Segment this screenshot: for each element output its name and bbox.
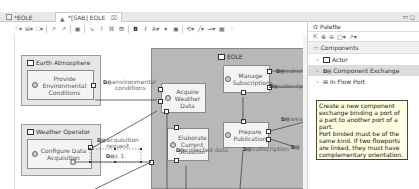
tab-eole[interactable]: *EOLE xyxy=(2,12,37,22)
filter-button[interactable]: ↗ xyxy=(50,24,57,33)
line-color-button[interactable]: ⟲▾ xyxy=(186,24,194,33)
separator xyxy=(182,25,183,33)
bold-button[interactable]: B xyxy=(132,24,139,33)
actor-icon xyxy=(323,57,330,63)
palette-panel: ✿ Palette ⇱ ⊕ ⊖ ▢▾ ↗▾ ▭ Components • Act… xyxy=(307,22,419,189)
exchange-label-c1[interactable]: D⊟c 1 xyxy=(106,153,124,159)
bullet: • xyxy=(316,68,319,74)
palette-item-actor[interactable]: • Actor xyxy=(308,54,419,65)
zoom-in-icon[interactable]: ⊕ xyxy=(321,33,326,40)
exchange-label-unnamed[interactable]: D⊟ xyxy=(291,144,300,150)
connection-tool-icon[interactable]: ↗▾ xyxy=(349,33,357,40)
tab-label: *EOLE xyxy=(14,14,33,21)
separator xyxy=(128,25,129,33)
size-button[interactable]: ▦ xyxy=(218,24,225,33)
palette-tools: ⇱ ⊕ ⊖ ▢▾ ↗▾ xyxy=(308,32,419,42)
delete-button[interactable]: ⛃ xyxy=(118,24,125,33)
exchange-label-wea[interactable]: D⊟wea xyxy=(281,116,303,122)
palette-item-in-flow-port[interactable]: • ⊞ In Flow Port xyxy=(308,76,419,87)
window-controls[interactable]: ▭ ◻ xyxy=(402,13,415,20)
exchange-icon: D⊟ xyxy=(291,144,299,150)
line-style-button[interactable]: ╱▾ xyxy=(197,24,204,33)
arrange-button[interactable]: ⊞▾ xyxy=(25,24,33,33)
item-label: Component Exchange xyxy=(333,67,399,74)
select-tool-button[interactable]: ⁘▾ xyxy=(14,24,22,33)
tab-label: *[SAB] EOLE xyxy=(68,14,105,21)
exchange-lines xyxy=(15,35,308,189)
separator xyxy=(70,25,71,33)
palette-title: Palette xyxy=(320,23,341,30)
arrow-style-button[interactable]: →▾ xyxy=(207,24,215,33)
palette-item-component-exchange[interactable]: • D⊟ Component Exchange xyxy=(308,65,419,76)
exchange-label-collected-data[interactable]: D⊟collected data xyxy=(176,147,228,153)
layout-button[interactable]: ⛶▾ xyxy=(36,24,43,33)
exchange-icon: D⊟ xyxy=(97,137,105,143)
drawer-label: Components xyxy=(321,44,359,51)
bullet: • xyxy=(316,57,319,63)
select-arrow-icon[interactable]: ⇱ xyxy=(313,33,318,40)
style-button[interactable]: ▣ xyxy=(172,24,179,33)
editor-tab-bar: *EOLE ▲ *[SAB] EOLE ⌧ xyxy=(0,12,419,22)
exchange-icon: D⊟ xyxy=(281,116,289,122)
font-color-button[interactable]: A▾ xyxy=(152,24,159,33)
exchange-icon: D⊟ xyxy=(269,83,277,89)
palette-icon: ✿ xyxy=(313,23,318,30)
item-label: In Flow Port xyxy=(330,78,365,85)
diagram-canvas[interactable]: Earth Atmosphere Provide Environmental C… xyxy=(14,35,307,189)
diagram-toolbar: ⁘▾ ⊞▾ ⛶▾ ↗ ↗ ▣ ↘ ⌇ ⌘ ⛃ B I A▾ ▾ ▣ ⟲▾ ╱▾ … xyxy=(14,23,314,34)
heart-icon[interactable]: ♡ xyxy=(228,24,235,33)
hide-button[interactable]: ⌘ xyxy=(108,24,115,33)
exchange-label-acquisition-request[interactable]: D⊟acquisition request xyxy=(97,137,136,149)
tab-sab-eole[interactable]: ▲ *[SAB] EOLE ⌧ xyxy=(55,12,122,22)
fill-color-button[interactable]: ▾ xyxy=(162,24,169,33)
in-flow-port-icon: ⊞ xyxy=(323,78,328,85)
italic-button[interactable]: I xyxy=(142,24,149,33)
exchange-label-subscription[interactable]: D⊟subscription xyxy=(243,146,289,152)
unpin-button[interactable]: ⌇ xyxy=(98,24,105,33)
exchange-icon: D⊟ xyxy=(106,153,114,159)
exchange-icon: D⊟ xyxy=(243,146,251,152)
separator xyxy=(84,25,85,33)
exchange-label-environmental-conditions[interactable]: D⊟environmental conditions xyxy=(103,79,148,91)
exchange-icon: D⊟ xyxy=(276,68,284,74)
warning-icon: ▲ xyxy=(60,15,66,21)
refresh-button[interactable]: ▣ xyxy=(74,24,81,33)
separator xyxy=(46,25,47,33)
exchange-label-subscrip-2[interactable]: D⊟subscrip xyxy=(269,83,303,89)
filter2-button[interactable]: ↗ xyxy=(60,24,67,33)
tooltip: Create a new component exchange binding … xyxy=(316,100,408,160)
component-exchange-icon: D⊟ xyxy=(323,68,331,74)
zoom-out-icon[interactable]: ⊖ xyxy=(329,33,334,40)
palette-header: ✿ Palette xyxy=(308,22,419,32)
exchange-icon: D⊟ xyxy=(176,147,184,153)
diagram-icon xyxy=(6,14,12,20)
note-tool-icon[interactable]: ▢▾ xyxy=(337,33,346,40)
bullet: • xyxy=(316,79,319,85)
exchange-icon: D⊟ xyxy=(103,79,111,85)
folder-icon: ▭ xyxy=(313,44,319,51)
item-label: Actor xyxy=(332,56,348,63)
pin-button[interactable]: ↘ xyxy=(88,24,95,33)
palette-drawer-components[interactable]: ▭ Components xyxy=(308,42,419,54)
close-icon[interactable]: ⌧ xyxy=(110,14,117,21)
